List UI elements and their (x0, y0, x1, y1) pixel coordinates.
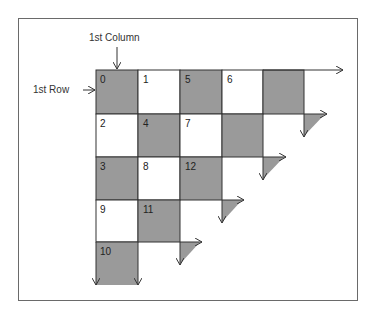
cell-number: 6 (227, 74, 233, 85)
cell-number: 1 (143, 74, 149, 85)
cell-number: 2 (100, 118, 106, 129)
cell-number: 7 (185, 118, 191, 129)
cell-number: 11 (143, 204, 153, 215)
cell-number: 9 (100, 204, 106, 215)
grid-cells (96, 70, 304, 285)
cell-number: 0 (100, 74, 106, 85)
cell-number: 10 (100, 246, 111, 257)
first-row-label: 1st Row (33, 84, 69, 95)
cell-unlabeled-r0c4 (263, 70, 304, 114)
zigzag-grid-diagram (0, 0, 379, 316)
cell-number: 12 (185, 161, 196, 172)
first-column-label: 1st Column (89, 32, 140, 43)
cell-number: 4 (143, 118, 149, 129)
cell-number: 5 (185, 74, 191, 85)
cell-number: 3 (100, 161, 106, 172)
cell-unlabeled-r1c3 (222, 114, 263, 157)
cell-number: 8 (143, 161, 149, 172)
